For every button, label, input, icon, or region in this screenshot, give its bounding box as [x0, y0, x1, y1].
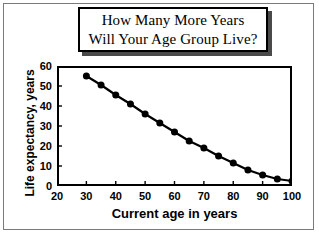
x-axis-tick-label: 80 — [227, 190, 239, 202]
x-axis-tick-label: 90 — [257, 190, 269, 202]
data-point-marker — [83, 73, 90, 80]
data-point-marker — [186, 138, 193, 145]
data-series-line — [86, 76, 292, 181]
x-axis-tick-label: 100 — [283, 190, 301, 202]
x-axis-tick-label: 40 — [110, 190, 122, 202]
chart-title-line-1: How Many More Years — [102, 11, 245, 30]
data-point-marker — [215, 153, 222, 160]
data-point-marker — [156, 120, 163, 127]
data-point-marker — [289, 178, 293, 185]
data-point-marker — [200, 145, 207, 152]
data-point-marker — [274, 176, 281, 183]
data-point-marker — [98, 82, 105, 89]
data-point-marker — [127, 101, 134, 108]
x-axis-tick-label: 60 — [168, 190, 180, 202]
chart-title-line-2: Will Your Age Group Live? — [89, 30, 258, 49]
x-axis-tick-label: 50 — [139, 190, 151, 202]
y-axis-title: Life expectancy, years — [23, 67, 37, 199]
x-axis-tick-label: 20 — [51, 190, 63, 202]
data-point-marker — [112, 92, 119, 99]
x-axis-tick-label: 70 — [198, 190, 210, 202]
chart-figure: How Many More Years Will Your Age Group … — [0, 0, 319, 235]
x-axis-tick-labels: 2030405060708090100 — [57, 190, 292, 204]
y-axis-title-holder: Life expectancy, years — [12, 66, 26, 186]
chart-title-box: How Many More Years Will Your Age Group … — [78, 7, 268, 52]
data-point-marker — [142, 111, 149, 118]
data-point-marker — [244, 167, 251, 174]
plot-canvas — [57, 66, 292, 186]
x-axis-title: Current age in years — [57, 206, 292, 221]
data-point-marker — [230, 160, 237, 167]
data-point-marker — [259, 172, 266, 179]
x-axis-tick-label: 30 — [80, 190, 92, 202]
data-point-marker — [171, 129, 178, 136]
